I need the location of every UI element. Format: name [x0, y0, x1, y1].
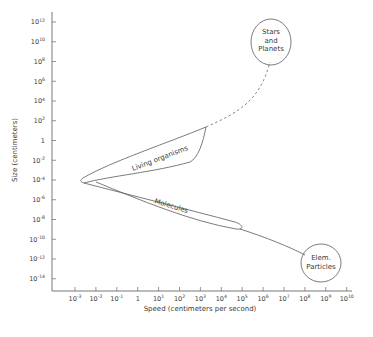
tick-label: 105	[237, 294, 248, 303]
molecules-label: Molecules	[153, 197, 189, 215]
living-organisms-region	[81, 127, 206, 183]
tick-label: 1010	[31, 37, 45, 46]
x-axis-title: Speed (centimeters per second)	[144, 305, 257, 313]
stars-label-line-3: Planets	[258, 45, 284, 53]
tick-label: 102	[174, 294, 185, 303]
tick-label: 10-6	[32, 195, 45, 204]
tick-label: 10-14	[29, 274, 45, 283]
tick-label: 10-1	[110, 294, 123, 303]
tick-label: 107	[278, 294, 289, 303]
tick-label: 109	[320, 294, 331, 303]
tick-label: 10-8	[32, 215, 45, 224]
tick-label: 10-10	[29, 235, 45, 244]
tick-label: 1010	[340, 294, 354, 303]
tick-label: 104	[216, 294, 227, 303]
y-axis-title: Size (centimeters)	[11, 118, 19, 182]
tick-label: 10-4	[32, 176, 45, 185]
tick-label: 1	[41, 137, 45, 145]
tick-label: 10-3	[69, 294, 82, 303]
stars-label-line-2: and	[264, 37, 277, 45]
particles-label-line-2: Particles	[306, 263, 336, 271]
x-axis-ticks: 10-310-210-11101102103104105106107108109…	[69, 287, 354, 303]
tick-label: 106	[257, 294, 268, 303]
tick-label: 108	[34, 57, 45, 66]
tick-label: 1	[136, 295, 140, 303]
molecules-to-particles-connector	[240, 229, 305, 255]
particles-label-line-1: Elem.	[311, 254, 331, 262]
tick-label: 108	[299, 294, 310, 303]
tick-label: 102	[34, 116, 45, 125]
speed-size-diagram: 10121010108106104102110-210-410-610-810-…	[0, 0, 373, 337]
organisms-to-stars-connector	[206, 62, 270, 127]
tick-label: 101	[153, 294, 164, 303]
tick-label: 104	[34, 97, 45, 106]
tick-label: 10-2	[32, 156, 45, 165]
stars-label-line-1: Stars	[262, 28, 280, 36]
tick-label: 10-12	[29, 255, 45, 264]
tick-label: 103	[195, 294, 206, 303]
tick-label: 10-2	[89, 294, 102, 303]
tick-label: 106	[34, 77, 45, 86]
tick-label: 1012	[31, 18, 45, 27]
